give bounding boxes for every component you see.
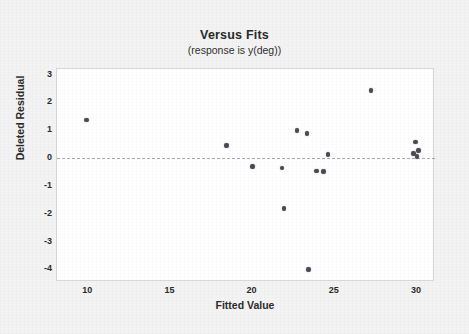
x-tick-label: 30 bbox=[396, 285, 436, 295]
scatter-point bbox=[295, 128, 300, 133]
x-tick-label: 10 bbox=[67, 285, 107, 295]
x-tick-label: 15 bbox=[149, 285, 189, 295]
scatter-point bbox=[321, 169, 326, 174]
x-axis-label: Fitted Value bbox=[56, 299, 434, 311]
x-axis-ticks: 1015202530 bbox=[56, 285, 434, 299]
y-tick-label: 2 bbox=[26, 96, 52, 106]
scatter-point bbox=[415, 154, 420, 159]
scatter-point bbox=[369, 88, 374, 93]
y-axis-ticks: 3210-1-2-3-4 bbox=[22, 68, 52, 281]
zero-reference-line bbox=[57, 158, 435, 159]
chart-subtitle: (response is y(deg)) bbox=[0, 44, 469, 56]
scatter-point bbox=[413, 140, 418, 145]
scatter-point bbox=[84, 118, 89, 123]
y-tick-label: 0 bbox=[26, 152, 52, 162]
scatter-point bbox=[314, 169, 319, 174]
scatter-point bbox=[282, 206, 287, 211]
scatter-point bbox=[224, 143, 229, 148]
scatter-point bbox=[326, 152, 331, 157]
scatter-point bbox=[280, 166, 285, 171]
chart-figure: Versus Fits (response is y(deg)) Deleted… bbox=[0, 0, 469, 334]
chart-title: Versus Fits bbox=[0, 28, 469, 42]
x-tick-label: 25 bbox=[314, 285, 354, 295]
scatter-point bbox=[306, 267, 311, 272]
scatter-point bbox=[250, 164, 255, 169]
y-tick-label: -1 bbox=[26, 180, 52, 190]
plot-area bbox=[56, 68, 434, 281]
scatter-point bbox=[416, 148, 421, 153]
y-tick-label: -4 bbox=[26, 263, 52, 273]
y-tick-label: -2 bbox=[26, 208, 52, 218]
scatter-point bbox=[305, 131, 310, 136]
y-tick-label: -3 bbox=[26, 236, 52, 246]
x-tick-label: 20 bbox=[232, 285, 272, 295]
y-tick-label: 1 bbox=[26, 124, 52, 134]
y-tick-label: 3 bbox=[26, 69, 52, 79]
